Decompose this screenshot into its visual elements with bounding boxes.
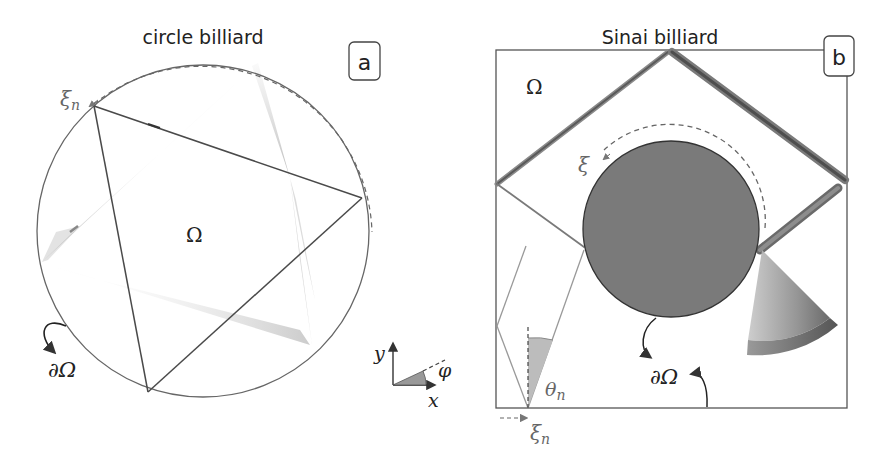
trajectory-lines: [94, 106, 362, 392]
panel-b-label: b: [832, 45, 846, 70]
panel-b: Sinai billiard b: [496, 26, 854, 447]
panel-a-label: a: [358, 50, 371, 75]
trajectory-lines-b: [497, 246, 584, 408]
boundary-label: ∂Ω: [48, 358, 76, 382]
circular-scatterer: [583, 141, 759, 317]
ray-bundle-shading: [42, 63, 315, 345]
panel-a-title: circle billiard: [143, 26, 264, 48]
panel-a: circle billiard a ξn Ω: [37, 26, 452, 411]
xi-n-label: ξn: [60, 87, 80, 113]
panel-a-label-box: a: [349, 42, 380, 80]
ray-cone: [747, 250, 838, 355]
panel-b-title: Sinai billiard: [602, 26, 719, 48]
wall-boundary-pointer-icon: [692, 374, 707, 407]
domain-omega-label-b: Ω: [526, 75, 543, 99]
angle-phi-wedge: [393, 371, 426, 385]
boundary-pointer-arrow-icon: [44, 323, 66, 352]
circle-boundary: [37, 65, 369, 397]
boundary-label-b: ∂Ω: [650, 365, 678, 389]
axes-inset: y x φ: [373, 342, 452, 411]
phi-angle-label: φ: [438, 359, 452, 381]
billiard-figure: circle billiard a ξn Ω: [0, 0, 884, 463]
theta-n-label: θn: [545, 378, 565, 403]
xi-arc-arrow-icon: [604, 154, 610, 159]
y-axis-label: y: [373, 342, 385, 364]
xi-n-label-b: ξn: [530, 421, 550, 447]
scatterer-boundary-pointer-icon: [643, 318, 656, 357]
x-axis-label: x: [428, 389, 439, 411]
trajectory-direction-icon: [148, 124, 160, 128]
panel-b-label-box: b: [824, 36, 854, 76]
domain-omega-label: Ω: [186, 223, 203, 247]
xi-coordinate-arc: [94, 66, 372, 232]
xi-arc-label: ξ: [578, 153, 590, 177]
